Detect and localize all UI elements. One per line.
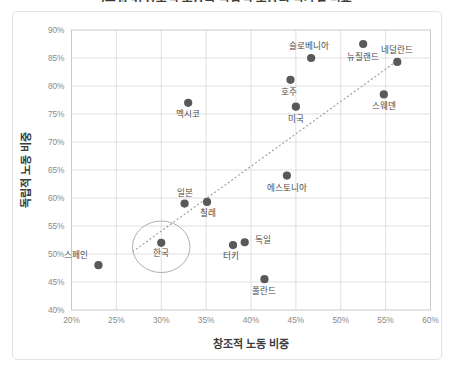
y-tick-label: 70% bbox=[48, 137, 65, 147]
y-axis-title: 독립적 노동 비중 bbox=[19, 132, 32, 208]
data-point-label: 미국 bbox=[288, 114, 304, 124]
scatter-plot: 스페인한국일본칠레멕시코터키독일폴란드에스토니아미국호주슬로베니아뉴질랜드네덜란… bbox=[0, 0, 454, 380]
y-tick-label: 90% bbox=[48, 25, 65, 35]
data-point-marker bbox=[393, 58, 401, 66]
data-point-marker bbox=[203, 198, 211, 206]
y-tick-label: 50% bbox=[48, 249, 65, 259]
data-point-marker bbox=[94, 261, 102, 269]
data-point-marker bbox=[241, 238, 249, 246]
data-point-label: 뉴질랜드 bbox=[347, 51, 379, 62]
x-tick-label: 50% bbox=[332, 315, 349, 325]
x-tick-label: 25% bbox=[108, 315, 125, 325]
x-tick-label: 40% bbox=[243, 315, 260, 325]
x-tick-label: 20% bbox=[63, 315, 80, 325]
data-point-label: 터키 bbox=[223, 251, 239, 261]
data-point-label: 에스토니아 bbox=[267, 183, 307, 193]
data-point-marker bbox=[359, 40, 367, 48]
data-point-marker bbox=[180, 200, 188, 208]
data-point-label: 호주 bbox=[281, 87, 297, 97]
y-tick-label: 75% bbox=[48, 109, 65, 119]
y-tick-label: 85% bbox=[48, 53, 65, 63]
data-point-label: 한국 bbox=[153, 248, 169, 258]
data-point-label: 슬로베니아 bbox=[289, 41, 329, 51]
y-axis-tick-labels: 40%45%50%55%60%65%70%75%80%85%90% bbox=[48, 25, 65, 315]
data-point-marker bbox=[260, 275, 268, 283]
x-tick-label: 35% bbox=[198, 315, 215, 325]
data-point-marker bbox=[292, 103, 300, 111]
y-tick-label: 65% bbox=[48, 165, 65, 175]
x-tick-label: 45% bbox=[288, 315, 305, 325]
y-tick-label: 60% bbox=[48, 193, 65, 203]
data-point-label: 폴란드 bbox=[252, 285, 276, 296]
data-markers bbox=[94, 40, 401, 283]
data-point-marker bbox=[229, 241, 237, 249]
y-tick-label: 55% bbox=[48, 221, 65, 231]
x-tick-label: 30% bbox=[153, 315, 170, 325]
data-point-label: 스페인 bbox=[64, 250, 88, 260]
y-tick-label: 45% bbox=[48, 277, 65, 287]
data-point-label: 칠레 bbox=[200, 208, 216, 218]
data-point-marker bbox=[283, 172, 291, 180]
data-point-label: 독일 bbox=[255, 235, 271, 245]
x-axis-tick-labels: 20%25%30%35%40%45%50%55%60% bbox=[63, 315, 439, 325]
data-point-marker bbox=[157, 239, 165, 247]
chart-figure: [그림 4] 창조적 노동과 독립적 노동의 국가별 비교 스페인한국일본칠레멕… bbox=[0, 0, 454, 380]
data-point-label: 네덜란드 bbox=[381, 44, 413, 55]
data-point-marker bbox=[307, 54, 315, 62]
y-tick-label: 40% bbox=[48, 305, 65, 315]
x-axis-title: 창조적 노동 비중 bbox=[213, 337, 289, 350]
x-tick-label: 60% bbox=[422, 315, 439, 325]
y-tick-label: 80% bbox=[48, 81, 65, 91]
x-tick-label: 55% bbox=[377, 315, 394, 325]
data-point-label: 멕시코 bbox=[176, 109, 200, 119]
data-point-marker bbox=[184, 99, 192, 107]
data-point-label: 일본 bbox=[177, 188, 193, 198]
data-point-marker bbox=[380, 90, 388, 98]
data-point-marker bbox=[286, 76, 294, 84]
data-point-label: 스웨덴 bbox=[372, 100, 396, 111]
